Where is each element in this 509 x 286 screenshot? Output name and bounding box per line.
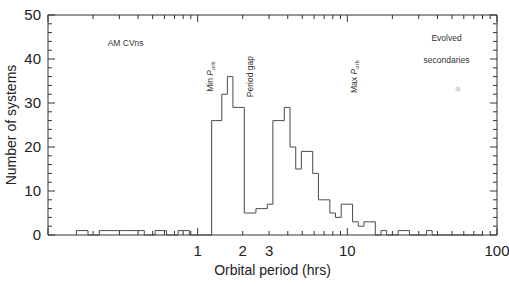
y-axis-label: Number of systems bbox=[3, 65, 19, 186]
x-axis-label: Orbital period (hrs) bbox=[214, 262, 331, 278]
annotation-am-cvns: AM CVns bbox=[108, 38, 144, 48]
x-tick-label: 2 bbox=[239, 242, 247, 259]
y-tick-label: 50 bbox=[24, 6, 41, 23]
histogram-figure: 1231010001020304050Orbital period (hrs)N… bbox=[0, 0, 509, 286]
orbital-period-histogram: 1231010001020304050Orbital period (hrs)N… bbox=[0, 0, 509, 286]
x-tick-label: 100 bbox=[484, 242, 509, 259]
x-tick-label: 3 bbox=[265, 242, 273, 259]
x-tick-label: 10 bbox=[339, 242, 356, 259]
y-tick-label: 20 bbox=[24, 138, 41, 155]
annotation-evolved-secondaries-line1: Evolved bbox=[431, 33, 462, 43]
y-tick-label: 0 bbox=[33, 226, 41, 243]
annotation-period-gap: Period gap bbox=[245, 56, 255, 97]
annotation-evolved-secondaries-line2: secondaries bbox=[424, 55, 470, 65]
y-tick-label: 10 bbox=[24, 182, 41, 199]
scan-artifact bbox=[455, 86, 460, 91]
x-tick-label: 1 bbox=[193, 242, 201, 259]
y-tick-label: 40 bbox=[24, 50, 41, 67]
y-tick-label: 30 bbox=[24, 94, 41, 111]
